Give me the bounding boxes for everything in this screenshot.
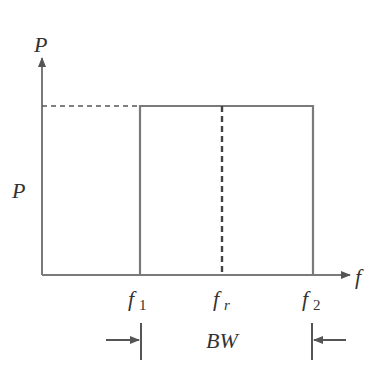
marker-f2: f 2 <box>302 286 321 313</box>
marker-fr: f r <box>213 286 230 313</box>
passband-rectangle <box>140 106 313 275</box>
svg-text:1: 1 <box>139 297 147 313</box>
bandwidth-label: BW <box>206 328 239 353</box>
bandwidth-diagram: P P f f 1 f r f 2 BW <box>0 0 386 371</box>
svg-text:f: f <box>302 286 311 311</box>
marker-f1: f 1 <box>128 286 147 313</box>
y-axis-label: P <box>33 32 47 57</box>
svg-text:2: 2 <box>313 297 321 313</box>
svg-text:f: f <box>128 286 137 311</box>
svg-text:r: r <box>224 297 230 313</box>
power-level-label: P <box>11 178 25 203</box>
x-axis-label: f <box>355 264 364 289</box>
svg-text:f: f <box>213 286 222 311</box>
